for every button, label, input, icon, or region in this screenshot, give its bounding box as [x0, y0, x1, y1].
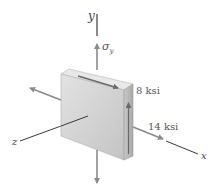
- normal-stress-x-label: 14 ksi: [148, 121, 178, 132]
- diagram-svg: y σy z 8 ksi 14 ksi x: [0, 0, 218, 189]
- x-axis-line: [166, 141, 198, 154]
- shear-stress-label: 8 ksi: [136, 85, 160, 96]
- stress-element-diagram: y σy z 8 ksi 14 ksi x: [0, 0, 218, 189]
- x-axis-label: x: [201, 150, 207, 161]
- z-axis-label: z: [11, 136, 18, 147]
- z-axis-line: [20, 126, 61, 141]
- sigma-y-label: σy: [102, 40, 115, 55]
- left-normal-stress-arrow: [30, 88, 61, 100]
- y-axis-label: y: [87, 9, 95, 23]
